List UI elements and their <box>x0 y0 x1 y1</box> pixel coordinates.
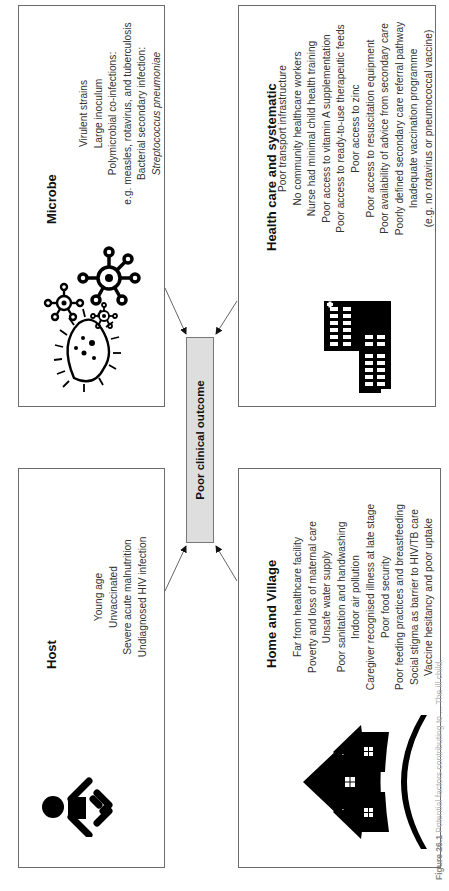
microbes-icon <box>29 228 149 398</box>
list-item: Poor access to resuscitation equipment <box>364 6 379 251</box>
list-item: Poor access to ready-to-use therapeutic … <box>334 6 349 251</box>
arrow-host <box>165 546 186 591</box>
home-village-factors: Far from healthcare facility Poverty and… <box>291 467 437 727</box>
list-item: Poor feeding practices and breastfeeding <box>393 467 408 727</box>
list-item: Unsafe water supply <box>320 467 335 727</box>
list-item: Polymicrobial co-infections: <box>106 6 121 221</box>
figure-caption: Figure 26.1 Potential factors contributi… <box>434 659 444 880</box>
diagram-stage: Host Young age Unvaccinated Severe acute… <box>0 0 449 891</box>
list-item: Poor transport infrastructure <box>276 6 291 251</box>
health-care-box: Health care and systematic Poor transpor… <box>238 5 436 407</box>
list-item: Poorly defined secondary care referral p… <box>393 6 408 251</box>
list-item: No community healthcare workers <box>291 6 306 251</box>
list-item: Poor food security <box>379 467 394 727</box>
village-houses-icon <box>289 707 429 857</box>
list-item: Poor availability of advice from seconda… <box>378 6 393 251</box>
host-factors: Young age Unvaccinated Severe acute maln… <box>92 467 150 727</box>
list-item: Streptococcus pneumoniae <box>150 6 165 221</box>
list-item: Social stigma as barrier to HIV/TB care <box>408 467 423 727</box>
list-item: Poor sanitation and handwashing <box>335 467 350 727</box>
caption-text: Potential factors contributing to ... Th… <box>434 659 444 832</box>
home-village-title: Home and Village <box>264 560 279 668</box>
list-item: Caregiver recognised illness at late sta… <box>364 467 379 727</box>
arrow-home <box>216 546 237 581</box>
arrow-health <box>216 301 237 334</box>
list-item: Inadequate vaccination programme <box>407 6 422 251</box>
list-item: Nurse had minimal child health training <box>305 6 320 251</box>
list-item: Large inoculum <box>92 6 107 221</box>
baby-icon <box>41 777 131 837</box>
list-item: Poor access to zinc <box>349 6 364 251</box>
microbe-box: Microbe Virulent strains Large inoculum … <box>18 5 165 407</box>
arrow-microbe <box>165 288 186 334</box>
list-item: Undiagnosed HIV infection <box>136 467 151 727</box>
list-item: e.g. measles, rotavirus, and tuberculosi… <box>121 6 136 221</box>
list-item: Unvaccinated <box>107 467 122 727</box>
caption-label: Figure 26.1 <box>434 835 444 880</box>
host-box: Host Young age Unvaccinated Severe acute… <box>18 468 165 868</box>
list-item: (e.g. no rotavirus or pneumococcal vacci… <box>422 6 437 251</box>
host-title: Host <box>44 640 59 669</box>
list-item: Poor access to vitamin A supplementation <box>320 6 335 251</box>
list-item: Virulent strains <box>77 6 92 221</box>
list-item: Indoor air pollution <box>349 467 364 727</box>
outcome-label: Poor clinical outcome <box>194 380 206 500</box>
microbe-title: Microbe <box>44 174 59 224</box>
hospital-building-icon <box>319 296 399 396</box>
list-item: Poverty and loss of maternal care <box>306 467 321 727</box>
list-item: Severe acute malnutrition <box>121 467 136 727</box>
home-village-box: Home and Village Far from healthcare fac… <box>238 468 441 868</box>
list-item: Young age <box>92 467 107 727</box>
list-item: Far from healthcare facility <box>291 467 306 727</box>
health-care-factors: Poor transport infrastructure No communi… <box>276 6 437 251</box>
list-item: Bacterial secondary infection: <box>135 6 150 221</box>
microbe-factors: Virulent strains Large inoculum Polymicr… <box>77 6 165 221</box>
poor-clinical-outcome-box: Poor clinical outcome <box>186 337 214 543</box>
